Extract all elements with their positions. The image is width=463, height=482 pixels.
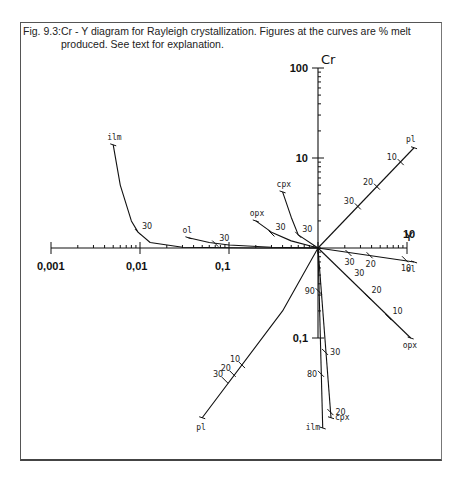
melt-percent-label: 80 (307, 370, 317, 379)
y-axis-title: Cr (321, 52, 336, 67)
melt-percent-label: 30 (142, 222, 152, 231)
melt-percent-label: 90 (305, 287, 315, 296)
curve-label-opx: opx (250, 209, 265, 218)
curve-label-cpx: cpx (277, 180, 292, 189)
melt-percent-label: 20 (366, 260, 376, 269)
curve-label-pl: pl (406, 135, 416, 144)
x-tick-label: 0,1 (215, 260, 230, 272)
melt-percent-label: 30 (344, 197, 354, 206)
curve-label-ilm: ilm (306, 423, 321, 432)
curve-end-cap (253, 220, 259, 222)
x-tick-label: 0,01 (126, 260, 147, 272)
curve-label-ol: ol (182, 226, 192, 235)
melt-percent-tick (386, 314, 392, 320)
melt-percent-label: 30 (354, 269, 364, 278)
x-tick-label: 0,001 (37, 260, 65, 272)
melt-percent-tick (135, 229, 141, 235)
y-tick-label: 100 (290, 62, 308, 74)
melt-percent-label: 10 (401, 264, 411, 273)
y-tick-label: 0,1 (293, 332, 308, 344)
curve-label-ilm: ilm (107, 133, 122, 142)
melt-percent-label: 10 (387, 153, 397, 162)
curve-opx-lower-right (318, 248, 411, 338)
melt-percent-tick (402, 256, 408, 262)
melt-percent-label: 30 (275, 223, 285, 232)
melt-percent-label: 30 (302, 225, 312, 234)
melt-percent-label: 30 (213, 370, 223, 379)
axes: 0,0010,010,1100,110100YCr (37, 52, 415, 344)
melt-percent-label: 10 (393, 307, 403, 316)
melt-percent-tick (322, 349, 328, 355)
melt-percent-tick (347, 276, 353, 282)
labels: ilm30ol30opx30cpx30pl302010ol302010opx30… (107, 133, 417, 432)
melt-percent-label: 10 (230, 355, 240, 364)
melt-percent-label: 30 (330, 348, 340, 357)
melt-percent-label: 20 (372, 286, 382, 295)
x-axis-title: Y (404, 229, 413, 244)
melt-percent-label: 20 (363, 178, 373, 187)
melt-percent-tick (365, 293, 371, 299)
curve-ilm-upper-left (113, 145, 318, 248)
melt-percent-tick (295, 232, 301, 238)
melt-percent-label: 30 (344, 258, 354, 267)
curve-label-opx: opx (403, 341, 418, 350)
cr-y-diagram: 0,0010,010,1100,110100YCr ilm30ol30opx30… (0, 0, 463, 482)
melt-percent-label: 30 (219, 234, 229, 243)
curve-pl-upper-right (318, 148, 414, 248)
melt-percent-label: 20 (335, 408, 345, 417)
curve-label-pl: pl (196, 423, 206, 432)
y-tick-label: 10 (296, 152, 308, 164)
